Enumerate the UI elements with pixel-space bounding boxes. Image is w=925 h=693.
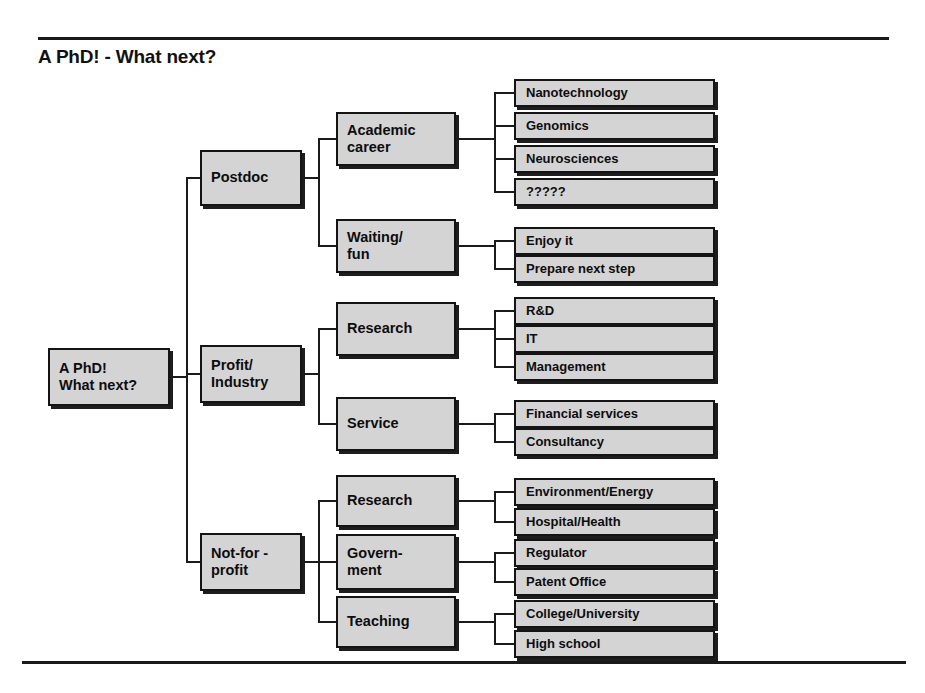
connector-postdoc-bus [318, 139, 320, 246]
connector-profit-industry-bus [318, 329, 320, 424]
node-leaf-regulator[interactable]: Regulator [514, 539, 715, 567]
connector-to-service-11 [318, 423, 336, 425]
node-leaf-college-university-label: College/University [526, 606, 639, 621]
node-leaf-hospital-health[interactable]: Hospital/Health [514, 508, 715, 536]
connector-academic-career-00-stub [456, 138, 496, 140]
node-leaf-consultancy[interactable]: Consultancy [514, 428, 715, 456]
connector-service-11-bus [494, 414, 496, 442]
node-category-waiting-fun-01-label: Waiting/ fun [347, 229, 403, 263]
node-category-govern-ment-21[interactable]: Govern- ment [336, 534, 456, 590]
node-category-research-10[interactable]: Research [336, 302, 456, 356]
connector-trunk-to-postdoc [186, 177, 200, 179]
connector-teaching-22-bus [494, 614, 496, 644]
node-leaf-prepare-next-step-label: Prepare next step [526, 261, 635, 276]
connector-to-college-university [494, 613, 514, 615]
connector-to-academic-career-00 [318, 138, 336, 140]
career-tree-diagram: A PhD! What next?PostdocAcademic careerN… [0, 0, 925, 693]
connector-to-teaching-22 [318, 621, 336, 623]
node-leaf-prepare-next-step[interactable]: Prepare next step [514, 255, 715, 283]
node-root[interactable]: A PhD! What next? [48, 348, 170, 406]
node-branch-not-for-profit[interactable]: Not-for - profit [200, 533, 302, 591]
node-category-service-11-label: Service [347, 415, 399, 432]
connector-to-patent-office [494, 581, 514, 583]
node-leaf-management-label: Management [526, 359, 605, 374]
node-leaf-nanotechnology-label: Nanotechnology [526, 85, 628, 100]
node-leaf-neurosciences-label: Neurosciences [526, 151, 619, 166]
node-category-academic-career-00-label: Academic career [347, 122, 416, 156]
connector-waiting-fun-01-stub [456, 245, 496, 247]
node-leaf-consultancy-label: Consultancy [526, 434, 604, 449]
connector-govern-ment-21-stub [456, 561, 496, 563]
node-leaf-patent-office[interactable]: Patent Office [514, 568, 715, 596]
node-category-govern-ment-21-label: Govern- ment [347, 545, 403, 579]
connector-to-consultancy [494, 441, 514, 443]
connector-to-environment-energy [494, 491, 514, 493]
node-leaf-enjoy-it[interactable]: Enjoy it [514, 227, 715, 255]
connector-to-research-10 [318, 328, 336, 330]
connector-to-nanotechnology [494, 92, 514, 94]
node-leaf-high-school[interactable]: High school [514, 630, 715, 658]
node-leaf-environment-energy-label: Environment/Energy [526, 484, 653, 499]
node-leaf-node[interactable]: ????? [514, 178, 715, 206]
node-category-waiting-fun-01[interactable]: Waiting/ fun [336, 219, 456, 273]
node-leaf-neurosciences[interactable]: Neurosciences [514, 145, 715, 173]
connector-to-regulator [494, 552, 514, 554]
connector-to-node [494, 191, 514, 193]
page-canvas: A PhD! - What next? A PhD! What next?Pos… [0, 0, 925, 693]
node-leaf-hospital-health-label: Hospital/Health [526, 514, 621, 529]
node-category-service-11[interactable]: Service [336, 397, 456, 451]
node-leaf-genomics-label: Genomics [526, 118, 589, 133]
connector-research-20-stub [456, 500, 496, 502]
connector-to-hospital-health [494, 521, 514, 523]
node-category-research-20[interactable]: Research [336, 475, 456, 527]
node-branch-postdoc-label: Postdoc [211, 169, 268, 186]
node-leaf-genomics[interactable]: Genomics [514, 112, 715, 140]
connector-to-waiting-fun-01 [318, 245, 336, 247]
node-leaf-r-d[interactable]: R&D [514, 297, 715, 325]
connector-to-it [494, 338, 514, 340]
node-leaf-node-label: ????? [526, 184, 566, 199]
node-leaf-financial-services[interactable]: Financial services [514, 400, 715, 428]
connector-to-high-school [494, 643, 514, 645]
node-leaf-patent-office-label: Patent Office [526, 574, 606, 589]
connector-govern-ment-21-bus [494, 553, 496, 582]
connector-to-prepare-next-step [494, 268, 514, 270]
node-category-teaching-22[interactable]: Teaching [336, 596, 456, 648]
connector-waiting-fun-01-bus [494, 241, 496, 269]
node-root-label: A PhD! What next? [59, 360, 137, 394]
connector-to-enjoy-it [494, 240, 514, 242]
node-category-research-10-label: Research [347, 320, 412, 337]
node-branch-profit-industry[interactable]: Profit/ Industry [200, 345, 302, 403]
node-leaf-environment-energy[interactable]: Environment/Energy [514, 478, 715, 506]
connector-to-genomics [494, 125, 514, 127]
node-category-academic-career-00[interactable]: Academic career [336, 112, 456, 166]
connector-to-management [494, 366, 514, 368]
connector-research-20-bus [494, 492, 496, 522]
connector-research-10-stub [456, 328, 496, 330]
node-leaf-nanotechnology[interactable]: Nanotechnology [514, 79, 715, 107]
node-category-teaching-22-label: Teaching [347, 613, 410, 630]
node-category-research-20-label: Research [347, 492, 412, 509]
node-branch-profit-industry-label: Profit/ Industry [211, 357, 268, 391]
node-leaf-enjoy-it-label: Enjoy it [526, 233, 573, 248]
node-branch-postdoc[interactable]: Postdoc [200, 150, 302, 206]
node-leaf-college-university[interactable]: College/University [514, 600, 715, 628]
node-branch-not-for-profit-label: Not-for - profit [211, 545, 268, 579]
node-leaf-high-school-label: High school [526, 636, 600, 651]
connector-to-financial-services [494, 413, 514, 415]
node-leaf-it[interactable]: IT [514, 325, 715, 353]
connector-to-r-d [494, 310, 514, 312]
connector-trunk-vertical [186, 178, 188, 562]
connector-trunk-to-profit-industry [186, 373, 200, 375]
connector-academic-career-00-bus [494, 93, 496, 192]
connector-to-research-20 [318, 500, 336, 502]
connector-trunk-to-not-for-profit [186, 561, 200, 563]
node-leaf-regulator-label: Regulator [526, 545, 587, 560]
node-leaf-r-d-label: R&D [526, 303, 554, 318]
node-leaf-management[interactable]: Management [514, 353, 715, 381]
connector-teaching-22-stub [456, 621, 496, 623]
connector-to-govern-ment-21 [318, 561, 336, 563]
node-leaf-it-label: IT [526, 331, 538, 346]
connector-to-neurosciences [494, 158, 514, 160]
node-leaf-financial-services-label: Financial services [526, 406, 638, 421]
